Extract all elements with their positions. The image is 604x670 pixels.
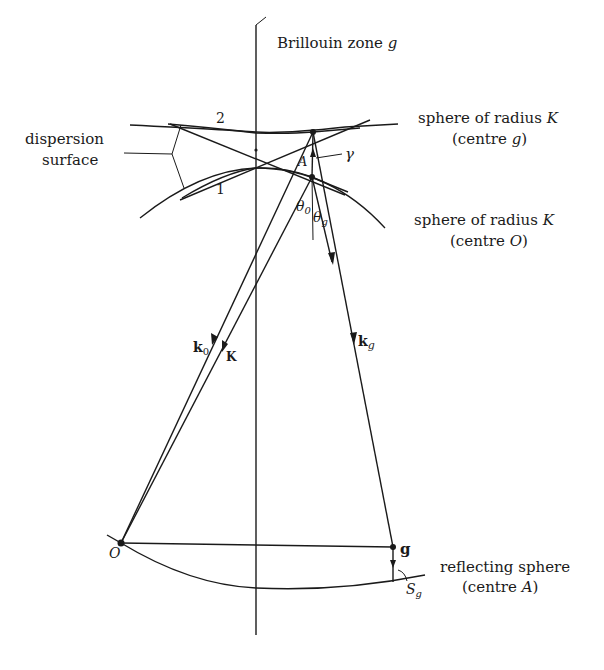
sg-arrow-icon (390, 560, 396, 568)
theta-0-label: θ0 (296, 198, 311, 216)
point-A-dot (309, 174, 315, 180)
gamma-label: γ (345, 145, 354, 163)
ag-arrow-icon (328, 252, 335, 265)
dispersion-pointer-down (172, 154, 184, 188)
origin-label: O (109, 545, 121, 561)
reflecting-sphere-label-2: (centre A) (462, 578, 538, 596)
reflecting-sphere-curve (121, 543, 425, 589)
g-point-label: g (400, 540, 411, 558)
sphere-centre-o-label-2: (centre O) (450, 232, 528, 250)
diagram-canvas: Brillouin zone g dispersion surface 2 1 … (0, 0, 604, 670)
dispersion-surface-label-1: dispersion (25, 130, 104, 148)
brillouin-zone-tick (256, 17, 266, 25)
dispersion-pointer-up (172, 125, 181, 154)
sphere-centre-o-curve (140, 168, 385, 228)
K-vector (121, 177, 312, 543)
sphere-centre-g-label-1: sphere of radius K (418, 109, 559, 127)
gamma-arrow-icon (310, 148, 316, 157)
reciprocal-vector-g (121, 543, 393, 547)
brillouin-zone-label: Brillouin zone g (277, 34, 397, 52)
dispersion-surface-label-2: surface (42, 151, 98, 169)
kg-label: kg (358, 333, 375, 352)
crossing-point (254, 148, 257, 151)
g-point (390, 544, 396, 550)
branch-2-label: 2 (216, 110, 225, 126)
sphere-centre-o-label-1: sphere of radius K (414, 211, 555, 229)
dispersion-pointer-main (124, 153, 172, 154)
reflecting-sphere-label-1: reflecting sphere (440, 558, 570, 576)
point-A-label: A (297, 154, 307, 169)
sphere-centre-g-label-2: (centre g) (452, 130, 527, 148)
k0-label: k0 (193, 339, 209, 357)
theta-g-label: θg (313, 209, 328, 227)
gamma-pointer (316, 154, 342, 158)
kg-arrow-icon (350, 332, 357, 345)
top-tie-point (310, 129, 316, 135)
K-label: K (226, 350, 237, 364)
sg-label: Sg (406, 581, 422, 599)
branch-1-label: 1 (216, 181, 225, 197)
